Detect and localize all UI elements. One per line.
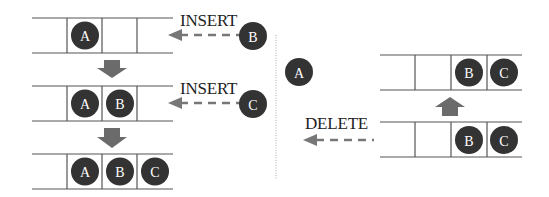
node-c-incoming: C (239, 90, 267, 118)
svg-text:A: A (80, 29, 91, 44)
up-arrow (435, 97, 465, 116)
svg-text:C: C (499, 134, 508, 149)
left-row-2 (32, 86, 173, 121)
insert-b-arrow (168, 29, 240, 41)
insert-c-arrow (168, 97, 240, 109)
svg-text:B: B (115, 97, 124, 112)
svg-text:C: C (499, 66, 508, 81)
svg-text:A: A (294, 66, 305, 81)
queue-diagram: A B A B (0, 0, 549, 197)
node-a-row-1: A (71, 22, 99, 50)
down-arrow-2 (97, 128, 127, 148)
node-c-row-3: C (141, 158, 169, 186)
insert-b-label: INSERT (180, 12, 237, 29)
node-b-row-2: B (106, 90, 134, 118)
node-b-incoming: B (239, 22, 267, 50)
node-b-row-3: B (106, 158, 134, 186)
insert-c-label: INSERT (180, 80, 237, 97)
svg-text:C: C (248, 98, 257, 113)
delete-label: DELETE (305, 115, 368, 132)
svg-text:A: A (80, 97, 91, 112)
node-a-removed: A (285, 58, 313, 86)
svg-text:B: B (464, 134, 473, 149)
node-a-row-3: A (71, 158, 99, 186)
node-c-right-before: C (490, 126, 518, 154)
left-row-1 (32, 18, 173, 53)
delete-arrow (303, 134, 374, 146)
svg-text:B: B (464, 66, 473, 81)
node-c-right-after: C (490, 59, 518, 87)
node-b-right-before: B (455, 126, 483, 154)
svg-text:C: C (150, 165, 159, 180)
svg-text:B: B (115, 165, 124, 180)
node-b-right-after: B (455, 59, 483, 87)
down-arrow-1 (97, 60, 127, 78)
svg-text:A: A (80, 165, 91, 180)
svg-text:B: B (248, 30, 257, 45)
node-a-row-2: A (71, 90, 99, 118)
